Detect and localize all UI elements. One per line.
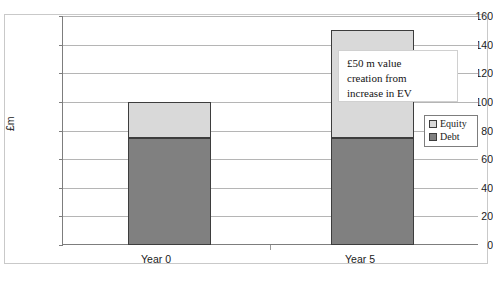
gridline-40	[63, 188, 478, 189]
legend-label-equity: Equity	[440, 119, 467, 129]
y-tick-mark	[59, 131, 63, 132]
x-tick-label-year-5: Year 5	[290, 253, 430, 265]
annotation-line-2: creation from	[347, 71, 449, 86]
y-tick-mark	[59, 102, 63, 103]
y-tick-mark	[59, 16, 63, 17]
y-tick-mark	[59, 216, 63, 217]
legend-label-debt: Debt	[440, 132, 459, 142]
annotation-callout: £50 m value creation from increase in EV	[338, 50, 458, 102]
y-tick-mark	[59, 159, 63, 160]
x-tick-label-year-0: Year 0	[86, 253, 226, 265]
bar-segment-equity[interactable]	[128, 102, 211, 138]
gridline-80	[63, 131, 478, 132]
bar-chart: £m 160 140 120 100 80 60 40 20 0	[0, 0, 493, 282]
annotation-line-1: £50 m value	[347, 56, 449, 71]
legend-item-equity[interactable]: Equity	[429, 119, 473, 129]
y-tick-mark	[59, 245, 63, 246]
x-axis-tick-mark	[270, 245, 271, 250]
gridline-140	[63, 45, 478, 46]
legend: Equity Debt	[424, 115, 478, 147]
bar-segment-debt[interactable]	[128, 138, 211, 245]
y-tick-mark	[59, 73, 63, 74]
gridline-20	[63, 216, 478, 217]
y-tick-mark	[59, 45, 63, 46]
bar-segment-debt[interactable]	[331, 138, 414, 245]
gridline-160	[63, 16, 478, 17]
annotation-line-3: increase in EV	[347, 86, 449, 101]
y-tick-mark	[59, 188, 63, 189]
legend-swatch-debt-icon	[429, 133, 437, 141]
gridline-100	[63, 102, 478, 103]
legend-item-debt[interactable]: Debt	[429, 132, 473, 142]
bar-year-0[interactable]	[128, 16, 211, 245]
gridline-60	[63, 159, 478, 160]
legend-swatch-equity-icon	[429, 120, 437, 128]
y-axis-title: £m	[4, 116, 16, 131]
